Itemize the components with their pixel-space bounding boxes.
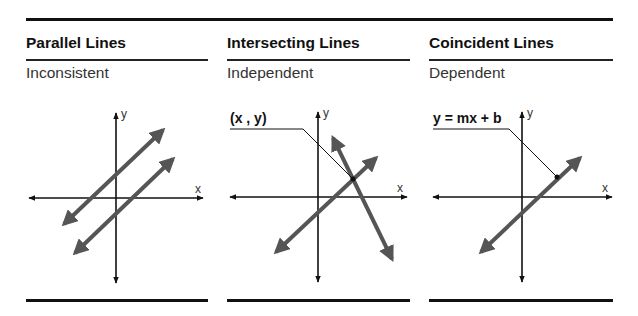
- coincident-line: [481, 158, 580, 252]
- y-axis-label: y: [527, 106, 533, 120]
- x-axis-label: x: [602, 181, 608, 195]
- line-2: [75, 159, 173, 253]
- rising-line: [276, 158, 376, 252]
- callout-leader: [230, 129, 353, 179]
- graphs-canvas: x y x y (x , y) x y y = mx + b: [0, 0, 638, 316]
- graph-coincident: x y y = mx + b: [433, 106, 612, 282]
- graph-intersecting: x y (x , y): [230, 106, 407, 282]
- line-1: [64, 130, 163, 224]
- intersection-label: (x , y): [230, 110, 267, 126]
- line-point: [555, 175, 560, 180]
- equation-label: y = mx + b: [433, 110, 501, 126]
- x-axis-label: x: [195, 182, 201, 196]
- x-axis-label: x: [397, 181, 403, 195]
- intersection-point: [351, 177, 356, 182]
- y-axis-label: y: [323, 106, 329, 120]
- falling-line: [333, 138, 392, 259]
- y-axis-label: y: [121, 107, 127, 121]
- callout-leader: [433, 129, 557, 177]
- graph-parallel: x y: [29, 107, 203, 283]
